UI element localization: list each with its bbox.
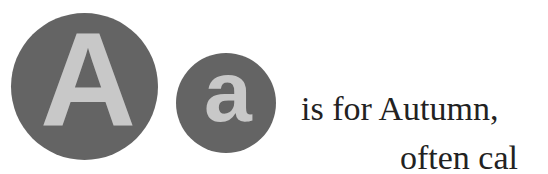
uppercase-letter: A bbox=[40, 14, 136, 147]
body-text-line-1: is for Autumn, bbox=[301, 92, 498, 126]
body-text-line-2: often cal bbox=[400, 141, 518, 174]
lowercase-letter: a bbox=[204, 48, 252, 134]
